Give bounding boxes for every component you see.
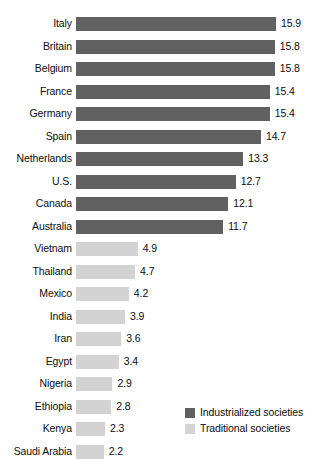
bar-traditional: [76, 400, 111, 414]
category-label: Spain: [0, 129, 72, 144]
bar-row: Australia11.7: [0, 220, 318, 234]
category-label: Kenya: [0, 421, 72, 436]
value-label: 4.9: [143, 241, 157, 256]
bar-row: Nigeria2.9: [0, 377, 318, 391]
bar-industrialized: [76, 152, 243, 166]
category-label: Vietnam: [0, 241, 72, 256]
bar-industrialized: [76, 17, 276, 31]
bar-industrialized: [76, 107, 270, 121]
value-label: 11.7: [228, 219, 247, 234]
legend-swatch-icon: [185, 408, 195, 418]
category-label: Germany: [0, 106, 72, 121]
bar-row: Egypt3.4: [0, 355, 318, 369]
bar-industrialized: [76, 85, 270, 99]
bar-traditional: [76, 332, 121, 346]
value-label: 2.3: [110, 421, 124, 436]
value-label: 13.3: [248, 151, 268, 166]
value-label: 15.4: [275, 106, 295, 121]
value-label: 15.8: [280, 61, 300, 76]
bar-industrialized: [76, 40, 275, 54]
category-label: Italy: [0, 16, 72, 31]
category-label: Iran: [0, 331, 72, 346]
bar-traditional: [76, 287, 129, 301]
bar-traditional: [76, 310, 125, 324]
value-label: 3.6: [126, 331, 140, 346]
bar-row: Spain14.7: [0, 130, 318, 144]
legend-swatch-icon: [185, 424, 195, 434]
value-label: 3.9: [130, 309, 144, 324]
category-label: Britain: [0, 39, 72, 54]
category-label: Ethiopia: [0, 399, 72, 414]
value-label: 12.7: [241, 174, 261, 189]
bar-row: Mexico4.2: [0, 287, 318, 301]
category-label: U.S.: [0, 174, 72, 189]
bar-row: Canada12.1: [0, 197, 318, 211]
value-label: 4.7: [140, 264, 154, 279]
bar-industrialized: [76, 197, 228, 211]
value-label: 3.4: [124, 354, 138, 369]
bar-row: Netherlands13.3: [0, 152, 318, 166]
bar-traditional: [76, 445, 104, 459]
bar-industrialized: [76, 62, 275, 76]
category-label: Egypt: [0, 354, 72, 369]
bar-row: France15.4: [0, 85, 318, 99]
bar-row: India3.9: [0, 310, 318, 324]
bar-traditional: [76, 355, 119, 369]
bar-row: Iran3.6: [0, 332, 318, 346]
bar-row: Thailand4.7: [0, 265, 318, 279]
legend-label: Traditional societies: [200, 421, 290, 436]
category-label: Mexico: [0, 286, 72, 301]
category-label: Saudi Arabia: [0, 444, 72, 459]
category-label: France: [0, 84, 72, 99]
bar-row: Saudi Arabia2.2: [0, 445, 318, 459]
value-label: 15.8: [280, 39, 300, 54]
category-label: Netherlands: [0, 151, 72, 166]
bar-row: Vietnam4.9: [0, 242, 318, 256]
category-label: Canada: [0, 196, 72, 211]
bar-row: Belgium15.8: [0, 62, 318, 76]
value-label: 12.1: [233, 196, 253, 211]
bar-row: U.S.12.7: [0, 175, 318, 189]
legend-item-industrialized: Industrialized societies: [185, 406, 315, 420]
value-label: 15.4: [275, 84, 295, 99]
category-label: Australia: [0, 219, 72, 234]
legend-item-traditional: Traditional societies: [185, 422, 315, 436]
value-label: 2.8: [116, 399, 130, 414]
category-label: India: [0, 309, 72, 324]
legend-label: Industrialized societies: [200, 405, 303, 420]
bar-traditional: [76, 265, 135, 279]
bar-industrialized: [76, 220, 223, 234]
category-label: Belgium: [0, 61, 72, 76]
value-label: 14.7: [266, 129, 286, 144]
category-label: Thailand: [0, 264, 72, 279]
bar-row: Britain15.8: [0, 40, 318, 54]
bar-industrialized: [76, 130, 261, 144]
bar-traditional: [76, 242, 138, 256]
value-label: 15.9: [281, 16, 301, 31]
bar-traditional: [76, 422, 105, 436]
value-label: 2.2: [109, 444, 123, 459]
value-label: 4.2: [134, 286, 148, 301]
category-label: Nigeria: [0, 376, 72, 391]
value-label: 2.9: [117, 376, 131, 391]
bar-row: Germany15.4: [0, 107, 318, 121]
bar-row: Italy15.9: [0, 17, 318, 31]
bar-industrialized: [76, 175, 236, 189]
chart-legend: Industrialized societiesTraditional soci…: [185, 406, 315, 438]
bar-traditional: [76, 377, 112, 391]
